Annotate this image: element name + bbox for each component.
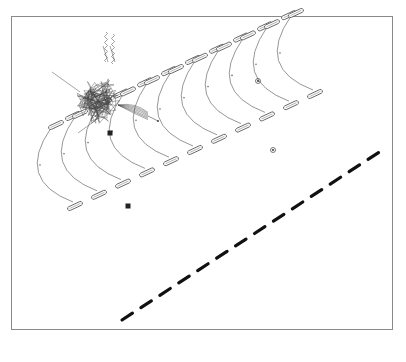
- dash-segment: [122, 313, 132, 320]
- dash-segment: [198, 264, 208, 271]
- dashed-line: [122, 153, 378, 320]
- capsule-subunit: [283, 100, 299, 110]
- capsule-subunit: [163, 156, 179, 166]
- arc-unit: [277, 8, 323, 99]
- capsule-subunit: [211, 134, 227, 144]
- marker-glyph: [271, 148, 276, 153]
- capsule-subunit: [48, 120, 64, 130]
- arc-unit: [253, 10, 299, 110]
- capsule-subunit: [120, 86, 136, 96]
- capsule-subunit: [240, 30, 256, 40]
- dash-segment: [179, 276, 189, 283]
- capsule-subunit: [168, 64, 184, 74]
- dash-segment: [349, 165, 359, 172]
- capsule-subunit: [67, 201, 83, 211]
- capsule-subunit: [115, 178, 131, 188]
- arc-array: [37, 8, 323, 211]
- capsule-subunit: [307, 89, 323, 99]
- dash-segment: [141, 301, 151, 308]
- dash-segment: [292, 202, 302, 209]
- capsule-subunit: [288, 8, 304, 18]
- marker-square: [126, 204, 131, 209]
- dash-segment: [217, 251, 227, 258]
- capsule-subunit: [264, 19, 280, 29]
- capsule-subunit: [235, 122, 251, 132]
- arc-unit: [229, 21, 275, 121]
- dash-segment: [255, 227, 265, 234]
- capsule-subunit: [144, 75, 160, 85]
- arc-unit: [205, 32, 251, 132]
- arc-unit: [109, 77, 155, 177]
- dash-segment: [160, 288, 170, 295]
- capsule-subunit: [139, 167, 155, 177]
- capsule-subunit: [91, 190, 107, 200]
- dash-segment: [273, 214, 283, 221]
- capsule-subunit: [187, 145, 203, 155]
- arc-unit: [37, 111, 83, 211]
- dash-segment: [236, 239, 246, 246]
- arc-unit: [157, 55, 203, 155]
- marker-square: [108, 131, 113, 136]
- markers: [108, 79, 276, 209]
- dash-segment: [311, 190, 321, 197]
- capsule-subunit: [216, 41, 232, 51]
- capsule-subunit: [259, 111, 275, 121]
- diagram-canvas: [0, 0, 406, 362]
- dash-segment: [368, 153, 378, 160]
- dash-segment: [330, 177, 340, 184]
- capsule-subunit: [192, 53, 208, 63]
- arc-unit: [181, 44, 227, 144]
